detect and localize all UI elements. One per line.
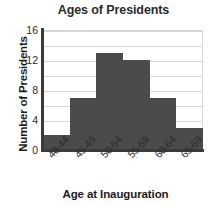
x-axis-title: Age at Inauguration (20, 188, 211, 200)
y-axis-tick-labels: 0481216 (10, 30, 38, 150)
y-axis-line (41, 28, 44, 152)
gridline (43, 31, 202, 32)
y-tick-label: 8 (12, 84, 38, 96)
histogram-chart: Ages of Presidents Number of Presidents … (0, 0, 211, 206)
x-axis-tick-labels: 40-4445-4950-5455-5960-6465-69 (43, 152, 203, 188)
gridline (43, 46, 202, 47)
y-tick-label: 4 (12, 114, 38, 126)
chart-title: Ages of Presidents (0, 3, 211, 17)
y-tick-label: 16 (12, 24, 38, 36)
y-tick-label: 0 (12, 144, 38, 156)
y-tick-label: 12 (12, 54, 38, 66)
